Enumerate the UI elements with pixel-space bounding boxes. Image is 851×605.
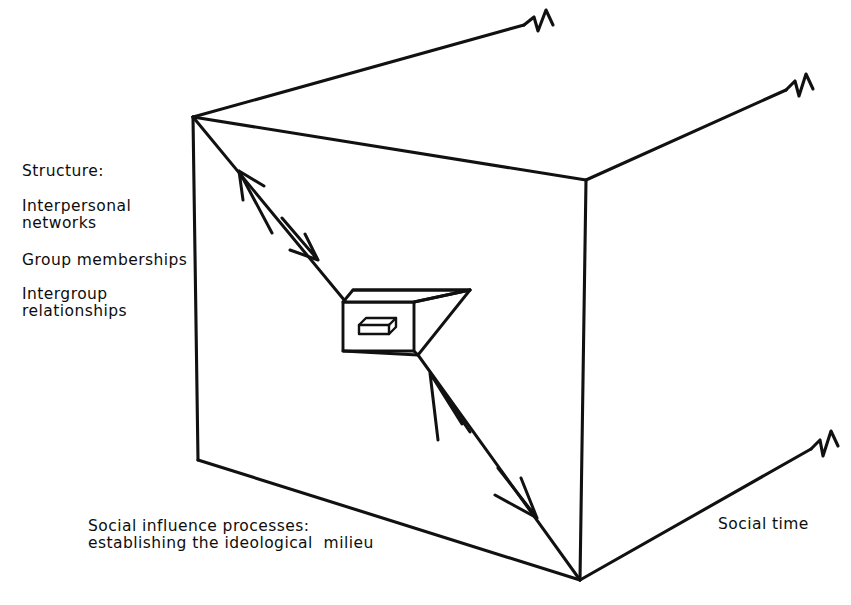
outer-cube-depth-edges bbox=[193, 10, 838, 580]
cube-edge-depth-topright bbox=[586, 90, 786, 180]
label-social-time-axis: Social time bbox=[718, 516, 809, 533]
diagram-canvas: Structure: Interpersonal networks Group … bbox=[0, 0, 851, 605]
diagonal-arrow-upper bbox=[193, 117, 345, 301]
inner-bar bbox=[359, 318, 396, 334]
diagonal-arrow-lower bbox=[418, 355, 580, 580]
arrowhead-up-left bbox=[239, 171, 272, 233]
label-intergroup-relationships: Intergroup relationships bbox=[22, 286, 127, 320]
break-zigzag-right-lower-icon bbox=[811, 431, 838, 456]
break-zigzag-top-icon bbox=[524, 10, 553, 31]
arrowhead-down-right-lower bbox=[495, 468, 537, 518]
arrowhead-down-right-upper bbox=[282, 218, 318, 260]
arrowhead-up-left-lower bbox=[430, 373, 470, 440]
cube-edge-front-right bbox=[580, 180, 586, 580]
cube-edge-front-top bbox=[193, 117, 586, 180]
label-group-memberships: Group memberships bbox=[22, 252, 187, 269]
label-interpersonal-networks: Interpersonal networks bbox=[22, 198, 131, 232]
inner-box-top-face bbox=[343, 290, 470, 302]
cube-edge-front-left bbox=[193, 117, 198, 460]
diagonal-arrow-upper-shaft bbox=[193, 117, 345, 301]
cube-edge-depth-topleft bbox=[193, 25, 524, 117]
label-social-influence-processes: Social influence processes: establishing… bbox=[88, 518, 374, 552]
label-structure-heading: Structure: bbox=[22, 163, 104, 180]
break-zigzag-right-upper-icon bbox=[786, 74, 813, 96]
